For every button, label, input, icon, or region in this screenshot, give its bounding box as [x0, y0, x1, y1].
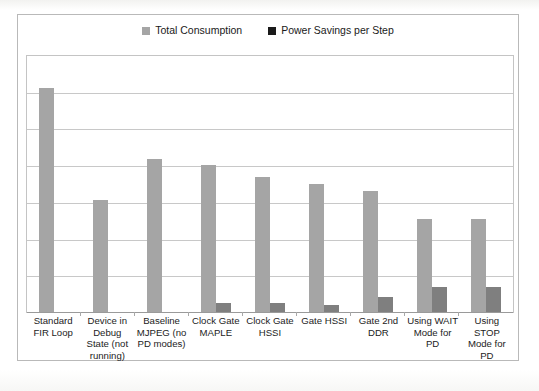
- bar[interactable]: [378, 297, 393, 312]
- bar[interactable]: [471, 219, 486, 312]
- legend-entry-total-consumption: Total Consumption: [142, 25, 242, 36]
- bar[interactable]: [93, 200, 108, 312]
- category-label: Using WAIT Mode for PD: [406, 315, 460, 361]
- bar[interactable]: [324, 305, 339, 312]
- category-label: Gate 2nd DDR: [351, 315, 405, 361]
- bar-group[interactable]: [189, 56, 243, 312]
- bar-group[interactable]: [297, 56, 351, 312]
- bar-series-container: [27, 56, 513, 312]
- bar-group[interactable]: [135, 56, 189, 312]
- bar-group[interactable]: [243, 56, 297, 312]
- plot-area: [26, 55, 514, 313]
- bar[interactable]: [270, 303, 285, 312]
- square-marker-icon: [142, 27, 150, 35]
- category-label: Using STOP Mode for PD: [460, 315, 514, 361]
- chart-container: Total Consumption Power Savings per Step…: [17, 14, 519, 361]
- x-axis-category-labels: Standard FIR LoopDevice in Debug State (…: [26, 315, 514, 361]
- category-label: Gate HSSI: [297, 315, 351, 361]
- bar[interactable]: [309, 184, 324, 312]
- bar[interactable]: [147, 159, 162, 312]
- bar[interactable]: [255, 177, 270, 312]
- bar[interactable]: [486, 287, 501, 312]
- category-label: Baseline MJPEG (no PD modes): [134, 315, 188, 361]
- bar[interactable]: [201, 165, 216, 312]
- x-axis-line: [27, 312, 513, 313]
- bar[interactable]: [417, 219, 432, 312]
- legend-label: Power Savings per Step: [281, 25, 394, 36]
- bar[interactable]: [216, 303, 231, 312]
- bar-group[interactable]: [459, 56, 513, 312]
- square-marker-icon: [268, 27, 276, 35]
- category-label: Clock Gate HSSI: [243, 315, 297, 361]
- bar[interactable]: [363, 191, 378, 312]
- category-label: Device in Debug State (not running): [80, 315, 134, 361]
- chart-legend: Total Consumption Power Savings per Step: [18, 25, 518, 36]
- category-label: Clock Gate MAPLE: [189, 315, 243, 361]
- bar-group[interactable]: [405, 56, 459, 312]
- legend-label: Total Consumption: [155, 25, 242, 36]
- bar-group[interactable]: [81, 56, 135, 312]
- bar[interactable]: [39, 88, 54, 312]
- bar-group[interactable]: [351, 56, 405, 312]
- bar[interactable]: [432, 287, 447, 312]
- category-label: Standard FIR Loop: [26, 315, 80, 361]
- legend-entry-power-savings-per-step: Power Savings per Step: [268, 25, 394, 36]
- bar-group[interactable]: [27, 56, 81, 312]
